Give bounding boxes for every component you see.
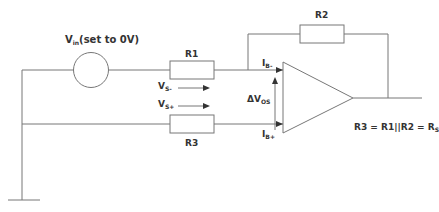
ib-minus-label: IB-	[262, 58, 272, 69]
r1-label: R1	[185, 49, 198, 59]
resistor-r3	[170, 115, 214, 133]
ib-plus-label: IB+	[262, 129, 275, 140]
resistor-r2	[300, 25, 344, 43]
vs-minus-label: VS-	[158, 81, 172, 92]
vs-plus-arrowhead-icon	[203, 103, 210, 109]
ib-minus-arrowhead-icon	[276, 67, 283, 73]
source-label: Vin(set to 0V)	[65, 34, 139, 46]
voltage-source-icon	[74, 53, 109, 88]
delta-vos-label: ΔVOS	[247, 94, 270, 105]
equation-label: R3 = R1||R2 = RS	[354, 122, 439, 133]
opamp-icon	[283, 62, 353, 133]
delta-vos-arrowhead-icon	[272, 77, 278, 84]
resistor-r1	[170, 61, 214, 79]
ib-plus-arrowhead-icon	[276, 121, 283, 127]
r2-label: R2	[315, 10, 328, 20]
r3-label: R3	[185, 138, 198, 148]
vs-plus-label: VS+	[158, 99, 174, 110]
vs-minus-arrowhead-icon	[203, 85, 210, 91]
